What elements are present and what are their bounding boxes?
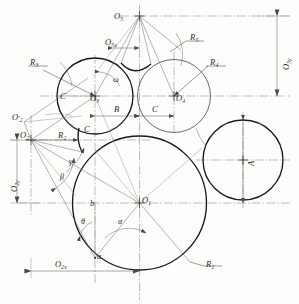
label-angle-omega: ω — [113, 76, 119, 84]
label-radius-r3: R3 — [30, 58, 38, 68]
label-center-o5: O5 — [114, 12, 123, 22]
label-center-o4: O4 — [176, 94, 185, 104]
line-o2-tangent-r1 — [31, 140, 82, 152]
label-dim-b: B — [114, 105, 119, 114]
label-dim-o2y: O2y — [10, 180, 20, 192]
label-center-o3: O3 — [90, 94, 99, 104]
label-center-o2-prime: O′2 — [12, 113, 23, 123]
label-dim-a: A — [247, 161, 256, 166]
label-dim-o5x: O5x — [105, 38, 117, 48]
line-o5-tangent-right — [140, 16, 152, 64]
line-o1-aux-up — [95, 150, 140, 203]
label-radius-r2: R2 — [58, 131, 66, 141]
leader-r1 — [190, 262, 204, 266]
leader-r4 — [174, 66, 208, 96]
label-dim-o2x: O2x — [55, 260, 67, 270]
label-angle-alpha: α — [118, 218, 122, 226]
label-radius-r4: R4 — [210, 58, 218, 68]
label-dim-c-lower: C — [84, 125, 90, 134]
line-o5-tangent-left — [121, 16, 140, 63]
leader-r3 — [43, 70, 95, 96]
arc-tangent-right — [196, 128, 206, 146]
label-dim-c-right: C — [152, 105, 158, 114]
label-center-o1: O1 — [142, 196, 151, 206]
arc-r5-fillet — [121, 63, 151, 71]
label-point-a: a — [97, 252, 101, 261]
arc-r3-construction — [60, 62, 72, 86]
cad-geometry-svg — [0, 0, 299, 304]
line-o1-upper-right — [140, 148, 203, 203]
label-angle-beta: β — [60, 173, 64, 181]
arc-alpha — [105, 228, 146, 238]
o1-construction-lines — [95, 96, 202, 262]
line-o5-r5-leader — [140, 16, 182, 50]
label-point-b: b — [90, 199, 94, 208]
line-o2-o1 — [31, 140, 140, 203]
o5-construction-lines — [95, 16, 181, 96]
technical-drawing-canvas: O1 O2 O′2 O3 O4 O5 R1 R2 R3 R4 R5 B C C … — [0, 0, 299, 304]
center-mark-o5 — [134, 11, 145, 21]
line-o5-o3 — [95, 16, 140, 96]
line-o2p-aux — [24, 116, 82, 122]
line-o1-r1-leader — [140, 203, 191, 262]
label-angle-theta: θ — [81, 218, 85, 226]
label-dim-c-left: C — [60, 92, 66, 101]
point-marker-a — [94, 257, 96, 259]
label-center-o2: O2 — [20, 131, 29, 141]
label-angle-gamma: γ — [69, 158, 72, 166]
line-o2-aux — [31, 140, 76, 196]
line-o5-o4 — [140, 16, 175, 96]
arc-r5-construction — [176, 33, 183, 66]
label-radius-r5: R5 — [190, 33, 198, 43]
line-o2p-upper — [24, 78, 88, 122]
label-dim-o5y: O5y — [282, 58, 292, 70]
line-o2-point-a — [31, 140, 95, 258]
label-radius-r1: R1 — [206, 260, 214, 270]
dimension-lines-group — [10, 16, 290, 278]
